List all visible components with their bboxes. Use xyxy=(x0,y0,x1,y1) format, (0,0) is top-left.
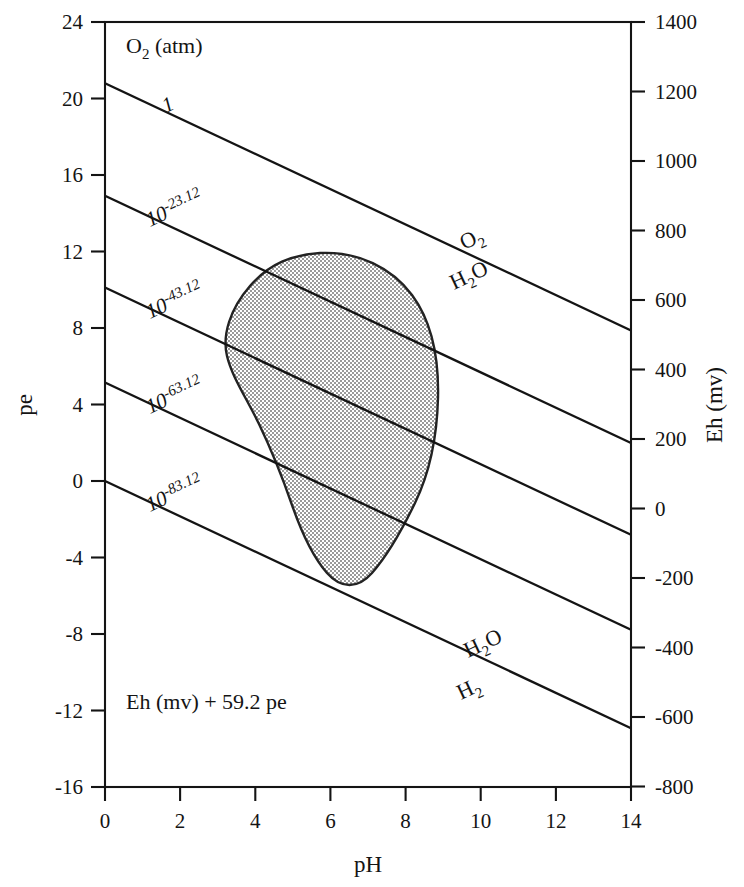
y-right-tick-label: 1400 xyxy=(655,10,697,34)
y-left-tick-label: 20 xyxy=(62,87,83,111)
x-tick-label: 0 xyxy=(100,809,111,833)
po2-label-10-m63-12: 10-63.12 xyxy=(141,370,206,418)
y-left-tick-label: 24 xyxy=(62,10,84,34)
y-left-tick-label: -16 xyxy=(55,775,83,799)
y-left-tick-label: -8 xyxy=(66,622,84,646)
x-tick-label: 6 xyxy=(325,809,336,833)
y-right-tick-labels: 1400 1200 1000 800 600 400 200 0 -200 -4… xyxy=(655,10,697,799)
oxygen-partial-pressure-header: O2 (atm) xyxy=(126,33,203,62)
y-right-tick-label: 600 xyxy=(655,288,687,312)
pe-ph-stability-diagram: 24 20 16 12 8 4 0 -4 -8 -12 -16 1400 120… xyxy=(0,0,744,887)
y-left-tick-label: 8 xyxy=(73,316,84,340)
y-right-tick-label: -600 xyxy=(655,705,694,729)
eh-pe-relation-note: Eh (mv) + 59.2 pe xyxy=(126,689,287,714)
y-right-tick-label: 1000 xyxy=(655,149,697,173)
y-left-tick-labels: 24 20 16 12 8 4 0 -4 -8 -12 -16 xyxy=(55,10,84,799)
x-tick-label: 2 xyxy=(175,809,186,833)
y-right-axis-title-text: Eh (mv) xyxy=(702,367,727,443)
y-right-axis-title: Eh (mv) xyxy=(702,367,727,443)
x-tick-label: 10 xyxy=(470,809,491,833)
po2-label-10-m23-12: 10-23.12 xyxy=(141,183,206,231)
y-right-tick-label: 1200 xyxy=(655,80,697,104)
y-left-tick-label: 12 xyxy=(62,240,83,264)
x-tick-labels: 0 2 4 6 8 10 12 14 xyxy=(100,809,642,833)
po2-label-10-m83-12: 10-83.12 xyxy=(141,468,206,516)
chart-canvas: 24 20 16 12 8 4 0 -4 -8 -12 -16 1400 120… xyxy=(0,0,744,887)
o2-h2o-boundary-label: O2 H2O xyxy=(445,222,493,298)
svg-text:H2: H2 xyxy=(452,672,486,708)
x-tick-label: 14 xyxy=(621,809,643,833)
y-left-tick-label: -12 xyxy=(55,699,83,723)
po2-label-10-m43-12: 10-43.12 xyxy=(141,275,206,323)
y-left-axis-title: pe xyxy=(12,394,37,416)
y-right-tick-label: -200 xyxy=(655,566,694,590)
y-right-tick-label: 200 xyxy=(655,427,687,451)
y-left-tick-label: -4 xyxy=(66,546,84,570)
y-left-tick-marks xyxy=(91,22,105,787)
y-right-tick-label: -800 xyxy=(655,775,694,799)
x-tick-label: 4 xyxy=(250,809,261,833)
y-right-tick-label: -400 xyxy=(655,636,694,660)
x-tick-marks xyxy=(105,787,631,801)
svg-text:O2: O2 xyxy=(455,222,489,258)
y-right-tick-label: 800 xyxy=(655,219,687,243)
y-left-tick-label: 4 xyxy=(73,393,84,417)
y-left-tick-label: 0 xyxy=(73,469,84,493)
y-right-tick-marks xyxy=(631,22,645,787)
y-right-tick-label: 400 xyxy=(655,358,687,382)
x-tick-label: 8 xyxy=(400,809,411,833)
y-left-tick-label: 16 xyxy=(62,163,83,187)
po2-label-1: 1 xyxy=(158,91,178,117)
y-right-tick-label: 0 xyxy=(655,497,666,521)
x-axis-title: pH xyxy=(354,852,382,877)
x-tick-label: 12 xyxy=(545,809,566,833)
